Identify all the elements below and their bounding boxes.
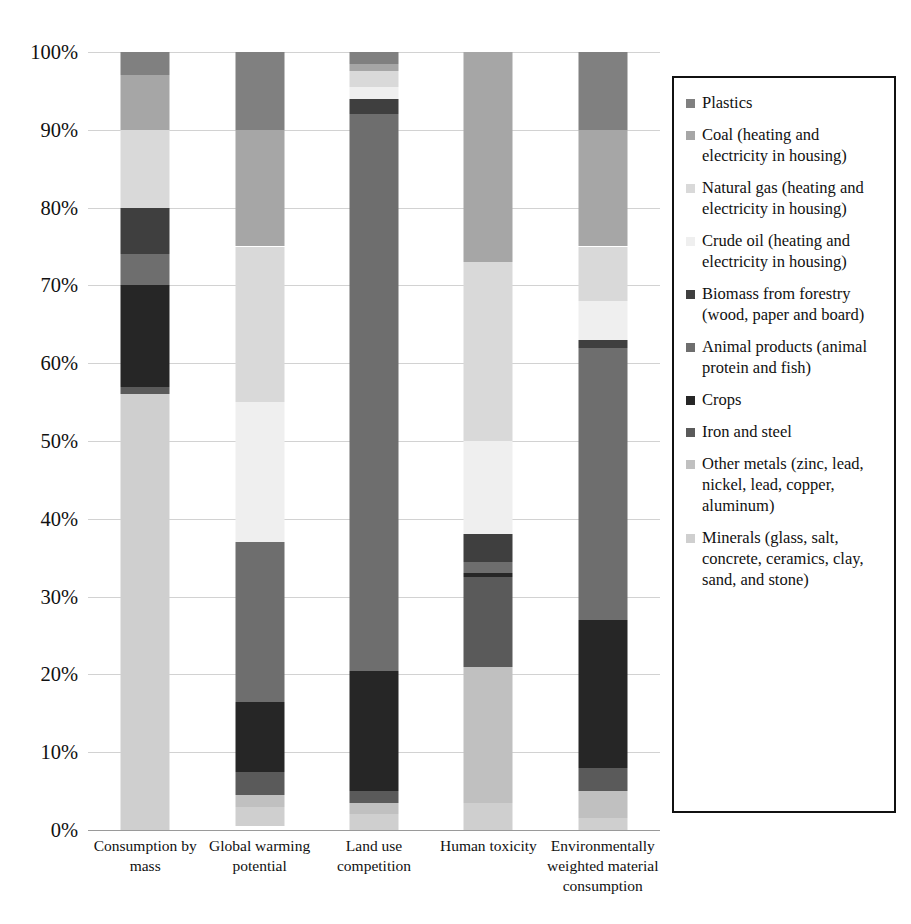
legend-label: Plastics: [702, 92, 884, 113]
plot-area: [88, 52, 660, 830]
stacked-bar[interactable]: [578, 52, 627, 830]
bar-column: [202, 52, 316, 830]
legend-item[interactable]: Natural gas (heating and electricity in …: [686, 177, 884, 219]
legend-swatch-icon: [686, 460, 695, 469]
bar-segment[interactable]: [235, 52, 284, 130]
gridline: [88, 830, 660, 831]
bar-segment[interactable]: [578, 247, 627, 301]
legend-item[interactable]: Minerals (glass, salt, concrete, ceramic…: [686, 527, 884, 590]
y-tick-label: 30%: [0, 585, 78, 608]
stacked-bar[interactable]: [349, 52, 398, 830]
legend-label: Animal products (animal protein and fish…: [702, 336, 884, 378]
bar-segment[interactable]: [349, 64, 398, 72]
y-tick-label: 60%: [0, 352, 78, 375]
legend-swatch-icon: [686, 396, 695, 405]
bar-segment[interactable]: [464, 577, 513, 666]
bar-segment[interactable]: [235, 247, 284, 403]
bar-column: [431, 52, 545, 830]
legend-item[interactable]: Coal (heating and electricity in housing…: [686, 124, 884, 166]
bar-segment[interactable]: [349, 87, 398, 99]
bar-segment[interactable]: [578, 301, 627, 340]
bar-segment[interactable]: [464, 262, 513, 441]
bar-segment[interactable]: [464, 534, 513, 561]
legend-label: Crude oil (heating and electricity in ho…: [702, 230, 884, 272]
bar-segment[interactable]: [578, 791, 627, 818]
bar-column: [317, 52, 431, 830]
bar-segment[interactable]: [464, 52, 513, 262]
bar-segment[interactable]: [235, 795, 284, 807]
bar-segment[interactable]: [578, 620, 627, 768]
x-tick-label: Land use competition: [317, 836, 431, 876]
legend-swatch-icon: [686, 237, 695, 246]
stacked-bar[interactable]: [121, 52, 170, 830]
x-tick-label: Human toxicity: [431, 836, 545, 856]
legend-swatch-icon: [686, 99, 695, 108]
stacked-bar-chart: 100%90%80%70%60%50%40%30%20%10%0% Consum…: [0, 0, 911, 924]
legend-item[interactable]: Plastics: [686, 92, 884, 113]
legend-label: Natural gas (heating and electricity in …: [702, 177, 884, 219]
bar-column: [546, 52, 660, 830]
bar-segment[interactable]: [235, 542, 284, 701]
chart-legend: PlasticsCoal (heating and electricity in…: [672, 76, 896, 813]
bar-segment[interactable]: [121, 52, 170, 75]
bar-series-group: [88, 52, 660, 830]
bar-segment[interactable]: [121, 285, 170, 386]
bar-segment[interactable]: [578, 348, 627, 620]
legend-item[interactable]: Biomass from forestry (wood, paper and b…: [686, 283, 884, 325]
stacked-bar[interactable]: [235, 52, 284, 830]
bar-segment[interactable]: [121, 130, 170, 208]
bar-segment[interactable]: [121, 208, 170, 255]
x-tick-label: Global warming potential: [202, 836, 316, 876]
bar-segment[interactable]: [349, 791, 398, 803]
legend-swatch-icon: [686, 343, 695, 352]
bar-segment[interactable]: [121, 75, 170, 129]
bar-segment[interactable]: [578, 52, 627, 130]
bar-segment[interactable]: [349, 803, 398, 815]
bar-segment[interactable]: [578, 340, 627, 348]
bar-segment[interactable]: [235, 772, 284, 795]
bar-segment[interactable]: [464, 562, 513, 574]
bar-segment[interactable]: [578, 818, 627, 830]
bar-segment[interactable]: [121, 254, 170, 285]
legend-label: Coal (heating and electricity in housing…: [702, 124, 884, 166]
y-tick-label: 40%: [0, 507, 78, 530]
bar-segment[interactable]: [235, 130, 284, 247]
legend-label: Crops: [702, 389, 884, 410]
bar-segment[interactable]: [464, 441, 513, 534]
legend-label: Minerals (glass, salt, concrete, ceramic…: [702, 527, 884, 590]
legend-item[interactable]: Other metals (zinc, lead, nickel, lead, …: [686, 453, 884, 516]
legend-swatch-icon: [686, 534, 695, 543]
legend-swatch-icon: [686, 184, 695, 193]
y-axis-tick-labels: 100%90%80%70%60%50%40%30%20%10%0%: [0, 0, 82, 924]
bar-segment[interactable]: [235, 402, 284, 542]
bar-segment[interactable]: [464, 667, 513, 803]
legend-item[interactable]: Crude oil (heating and electricity in ho…: [686, 230, 884, 272]
bar-segment[interactable]: [235, 702, 284, 772]
legend-label: Other metals (zinc, lead, nickel, lead, …: [702, 453, 884, 516]
bar-column: [88, 52, 202, 830]
bar-segment[interactable]: [235, 807, 284, 826]
stacked-bar[interactable]: [464, 52, 513, 830]
y-tick-label: 90%: [0, 118, 78, 141]
legend-swatch-icon: [686, 428, 695, 437]
x-tick-label: Environmentally weighted material consum…: [546, 836, 660, 896]
legend-swatch-icon: [686, 290, 695, 299]
legend-label: Biomass from forestry (wood, paper and b…: [702, 283, 884, 325]
bar-segment[interactable]: [121, 394, 170, 830]
legend-item[interactable]: Crops: [686, 389, 884, 410]
bar-segment[interactable]: [349, 99, 398, 115]
bar-segment[interactable]: [578, 768, 627, 791]
legend-label: Iron and steel: [702, 421, 884, 442]
bar-segment[interactable]: [349, 814, 398, 830]
bar-segment[interactable]: [349, 71, 398, 87]
legend-item[interactable]: Animal products (animal protein and fish…: [686, 336, 884, 378]
bar-segment[interactable]: [121, 387, 170, 395]
bar-segment[interactable]: [349, 52, 398, 64]
bar-segment[interactable]: [349, 671, 398, 792]
bar-segment[interactable]: [464, 803, 513, 830]
y-tick-label: 0%: [0, 819, 78, 842]
bar-segment[interactable]: [349, 114, 398, 670]
y-tick-label: 50%: [0, 430, 78, 453]
legend-item[interactable]: Iron and steel: [686, 421, 884, 442]
bar-segment[interactable]: [578, 130, 627, 247]
